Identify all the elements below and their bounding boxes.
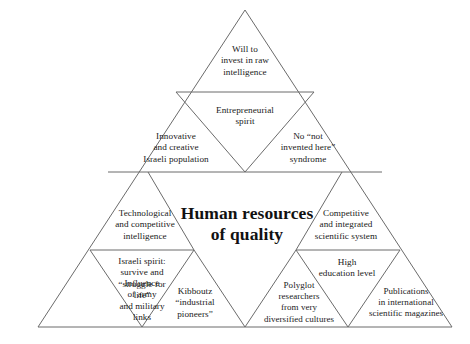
row2-zigzag bbox=[176, 92, 314, 172]
diagram-center-title: Human resources of quality bbox=[170, 203, 324, 245]
pyramid-outline-svg bbox=[0, 0, 470, 344]
row4-zigzag bbox=[90, 250, 400, 327]
pyramid-diagram: Will to invest in raw intelligence Innov… bbox=[0, 0, 470, 344]
outer-triangle-edges bbox=[38, 10, 452, 327]
